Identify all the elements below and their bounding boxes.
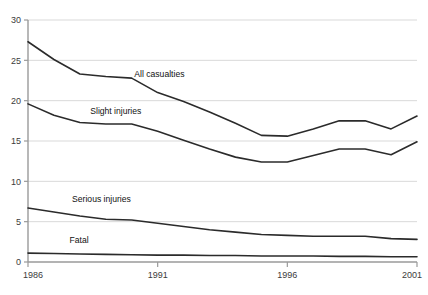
series-label-fatal: Fatal bbox=[69, 235, 88, 245]
x-tick-label: 1996 bbox=[277, 270, 297, 280]
x-tick-label: 1986 bbox=[23, 270, 43, 280]
y-tick-label: 20 bbox=[11, 96, 21, 106]
series-line-fatal bbox=[28, 253, 417, 257]
x-tick-label: 2001 bbox=[402, 270, 422, 280]
y-tick-label: 25 bbox=[11, 56, 21, 66]
series-label-serious-injuries: Serious injuries bbox=[72, 194, 131, 204]
line-chart: 0510152025301986199119962001All casualti… bbox=[0, 0, 428, 295]
series-label-all-casualties: All casualties bbox=[134, 69, 184, 79]
series-line-slight-injuries bbox=[28, 104, 417, 162]
series-line-all-casualties bbox=[28, 42, 417, 136]
y-tick-label: 0 bbox=[16, 257, 21, 267]
y-tick-label: 15 bbox=[11, 136, 21, 146]
x-tick-label: 1991 bbox=[148, 270, 168, 280]
y-tick-label: 30 bbox=[11, 15, 21, 25]
y-tick-label: 5 bbox=[16, 217, 21, 227]
chart-canvas: 0510152025301986199119962001All casualti… bbox=[0, 0, 428, 295]
series-label-slight-injuries: Slight injuries bbox=[90, 106, 141, 116]
y-tick-label: 10 bbox=[11, 177, 21, 187]
